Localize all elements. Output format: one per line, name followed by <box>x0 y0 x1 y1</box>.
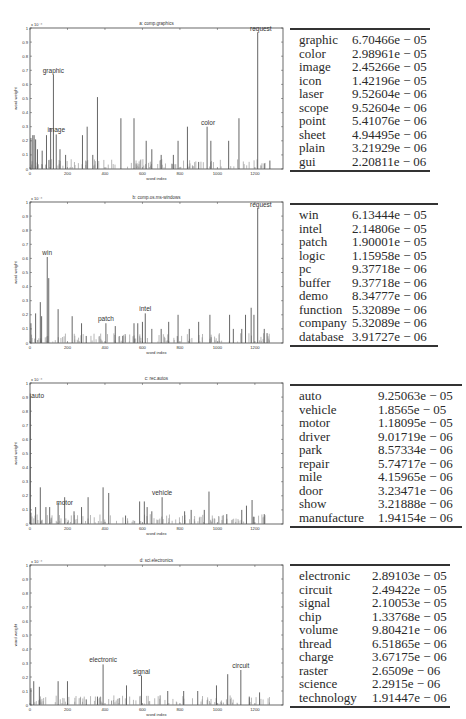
weight-cell: 9.80421e − 06 <box>372 623 447 637</box>
table-row: intel2.14806e − 05 <box>290 222 438 236</box>
word-cell: show <box>290 497 326 511</box>
word-cell: demo <box>290 289 328 303</box>
table-row: signal2.10053e − 05 <box>290 596 450 610</box>
word-cell: repair <box>290 457 329 471</box>
table-row: win6.13444e − 05 <box>290 208 438 222</box>
y-tick-label: 0.9 <box>22 577 28 582</box>
top-words-table-a: graphic6.70466e − 05color2.98961e − 05im… <box>290 28 430 172</box>
word-cell: win <box>290 208 319 222</box>
table-row: logic1.15958e − 05 <box>290 249 438 263</box>
y-tick-label: 0.1 <box>22 152 28 157</box>
panel-d: d: sci.electronicsx 10⁻⁴00.10.20.30.40.5… <box>0 545 466 719</box>
bar-annotation: signal <box>133 668 151 676</box>
table-row: auto9.25063e − 05 <box>290 389 462 403</box>
y-scale-note: x 10⁻⁴ <box>31 377 43 382</box>
table-row: repair5.74717e − 06 <box>290 457 462 471</box>
x-tick-label: 400 <box>101 707 109 712</box>
bar-annotation: request <box>250 25 272 33</box>
word-cell: science <box>290 677 337 691</box>
weight-cell: 9.01719e − 06 <box>378 430 453 444</box>
table-row: thread6.51865e − 06 <box>290 637 450 651</box>
word-cell: motor <box>290 416 330 430</box>
y-scale-note: x 10⁻⁴ <box>31 196 43 201</box>
bar-annotation: graphic <box>43 67 65 75</box>
x-tick-label: 1000 <box>213 526 223 531</box>
y-tick-label: 0.8 <box>22 54 28 59</box>
x-tick-label: 1200 <box>250 707 260 712</box>
weight-cell: 2.89103e − 05 <box>372 569 447 583</box>
x-tick-label: 0 <box>29 526 32 531</box>
bar-annotation: patch <box>98 315 114 323</box>
chart-title: a: comp.graphics <box>139 21 174 26</box>
x-tick-label: 0 <box>29 345 32 350</box>
table-row: show3.21888e − 06 <box>290 497 462 511</box>
word-cell: gui <box>290 155 316 169</box>
y-tick-label: 0.1 <box>22 689 28 694</box>
chart-title: d: sci.electronics <box>140 558 174 563</box>
word-cell: buffer <box>290 276 331 290</box>
y-tick-label: 1 <box>26 381 29 386</box>
y-axis-label: word weight <box>13 441 18 464</box>
y-tick-label: 0.7 <box>22 423 28 428</box>
x-tick-label: 800 <box>176 707 184 712</box>
y-tick-label: 0.8 <box>22 591 28 596</box>
table-row: database3.91727e − 06 <box>290 330 438 344</box>
weight-cell: 9.37718e − 06 <box>352 262 427 276</box>
weight-cell: 9.25063e − 05 <box>378 389 453 403</box>
word-cell: color <box>290 47 326 61</box>
y-tick-label: 0.5 <box>22 451 28 456</box>
weight-cell: 6.13444e − 05 <box>352 208 427 222</box>
word-cell: plain <box>290 141 325 155</box>
y-tick-label: 0.2 <box>22 675 28 680</box>
table-row: mile4.15965e − 06 <box>290 470 462 484</box>
weight-cell: 2.45266e − 05 <box>352 60 427 74</box>
weight-cell: 3.91727e − 06 <box>352 330 427 344</box>
weight-cell: 9.37718e − 06 <box>352 276 427 290</box>
x-tick-label: 200 <box>64 345 72 350</box>
weight-cell: 5.32089e − 06 <box>352 316 427 330</box>
x-axis-label: word index <box>146 531 167 536</box>
y-tick-label: 0.8 <box>22 228 28 233</box>
table-row: color2.98961e − 05 <box>290 47 430 61</box>
word-cell: intel <box>290 222 322 236</box>
weight-cell: 2.2915e − 06 <box>372 677 440 691</box>
weight-cell: 1.18095e − 05 <box>378 416 453 430</box>
y-tick-label: 0.3 <box>22 298 28 303</box>
y-axis-label: word weight <box>13 623 18 646</box>
word-cell: park <box>290 443 322 457</box>
y-tick-label: 1 <box>26 26 29 31</box>
y-tick-label: 0.6 <box>22 82 28 87</box>
table-row: manufacture1.94154e − 06 <box>290 511 462 525</box>
x-tick-label: 1000 <box>213 707 223 712</box>
bar-annotation: motor <box>56 499 73 506</box>
table-row: scope9.52604e − 06 <box>290 101 430 115</box>
bar-annotation: intel <box>139 305 151 312</box>
y-axis-label: word weight <box>13 260 18 283</box>
x-tick-label: 400 <box>101 345 109 350</box>
y-tick-label: 0.4 <box>22 647 28 652</box>
x-tick-label: 1000 <box>213 171 223 176</box>
table-row: chip1.33768e − 05 <box>290 610 450 624</box>
x-tick-label: 0 <box>29 171 32 176</box>
panel-a: a: comp.graphicsx 10⁻⁴00.10.20.30.40.50.… <box>0 0 466 180</box>
x-tick-label: 400 <box>101 171 109 176</box>
word-cell: door <box>290 484 323 498</box>
table-row: gui2.20811e − 06 <box>290 155 430 169</box>
x-tick-label: 800 <box>176 345 184 350</box>
word-cell: point <box>290 114 326 128</box>
table-row: icon1.42196e − 05 <box>290 74 430 88</box>
top-words-table-b: win6.13444e − 05intel2.14806e − 05patch1… <box>290 203 438 347</box>
word-cell: driver <box>290 430 330 444</box>
word-cell: auto <box>290 389 321 403</box>
table-row: vehicle1.8565e − 05 <box>290 403 462 417</box>
weight-cell: 5.74717e − 06 <box>378 457 453 471</box>
chart-title: c: rec.autos <box>145 376 169 381</box>
word-weight-chart-a: a: comp.graphicsx 10⁻⁴00.10.20.30.40.50.… <box>0 0 290 180</box>
x-axis-label: word index <box>146 712 167 717</box>
word-cell: charge <box>290 650 333 664</box>
weight-cell: 6.70466e − 05 <box>352 33 427 47</box>
table-row: plain3.21929e − 06 <box>290 141 430 155</box>
bar-annotation: electronic <box>89 656 118 663</box>
y-tick-label: 0.4 <box>22 465 28 470</box>
x-tick-label: 1200 <box>250 526 260 531</box>
